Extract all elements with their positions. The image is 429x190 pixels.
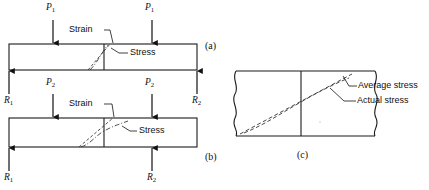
panel-b-id-label: (b) (205, 152, 217, 162)
panel-b-stress-label: Stress (139, 126, 165, 135)
panel-a-id-label: (a) (205, 41, 216, 51)
panel-a-strain-leader (104, 30, 113, 43)
panel-c-actual-stress-label: Actual stress (357, 96, 409, 105)
panel-c-left-break (234, 71, 237, 136)
panel-a-group (9, 20, 197, 94)
panel-b-load-right-label: P2 (145, 78, 154, 88)
panel-c-center-mark (319, 121, 320, 122)
panel-a-reaction-right-label: R2 (192, 96, 201, 106)
panel-b-reaction-left-label: R1 (4, 173, 13, 183)
panel-c-average-stress-line (240, 74, 352, 134)
panel-c-average-stress-label: Average stress (358, 81, 418, 90)
figure-canvas: P1 P1 Strain Stress R1 R2 (a) P2 P2 Stra… (0, 0, 429, 190)
panel-b-strain-leader (104, 104, 114, 117)
panel-b-reaction-right-label: R2 (147, 173, 156, 183)
panel-c-id-label: (c) (297, 150, 308, 160)
panel-c-actual-stress-curve (244, 78, 349, 133)
panel-a-beam (9, 44, 197, 70)
panel-a-reaction-left-label: R1 (4, 96, 13, 106)
panel-b-group (9, 94, 197, 171)
panel-a-stress-label: Stress (130, 48, 156, 57)
panel-b-strain-label: Strain (69, 99, 93, 108)
panel-b-load-left-label: P2 (46, 78, 55, 88)
panel-c-actual-stress-leader (330, 88, 356, 101)
panel-a-load-right-label: P1 (145, 3, 154, 13)
panel-a-load-left-label: P1 (46, 3, 55, 13)
panel-c-group (234, 71, 378, 136)
panel-b-beam (9, 118, 197, 147)
panel-a-strain-label: Strain (69, 25, 93, 34)
